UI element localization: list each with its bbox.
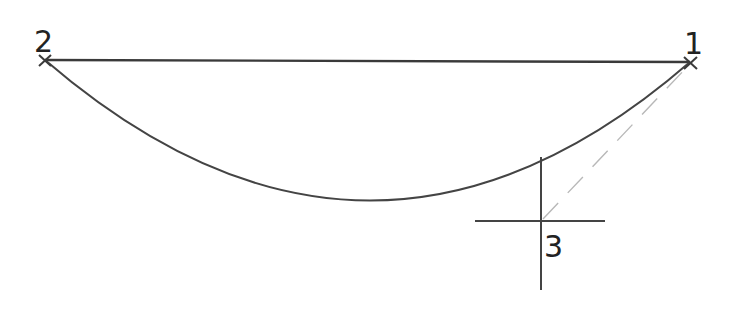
chord-line — [45, 60, 690, 62]
cad-canvas[interactable]: 2 1 3 — [0, 0, 740, 311]
arc-curve — [45, 60, 690, 201]
crosshair-cursor-icon — [475, 157, 605, 290]
point-1-label: 1 — [684, 26, 703, 61]
rubber-band-dashed-line — [543, 66, 688, 219]
point-2-label: 2 — [34, 24, 53, 59]
point-3-label: 3 — [544, 229, 563, 264]
